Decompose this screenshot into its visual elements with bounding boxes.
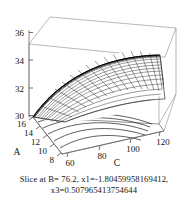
c-tick-label-60: 60 (66, 158, 76, 168)
z-tick-label-34: 34 (15, 56, 25, 66)
surface-plot-canvas: 36 34 32 30 16 14 12 10 8 A (0, 0, 188, 172)
surface-plot-figure: 36 34 32 30 16 14 12 10 8 A (0, 0, 188, 206)
surface-mesh (33, 50, 168, 122)
a-tick-label-8: 8 (50, 155, 55, 165)
c-axis-title: C (114, 158, 120, 168)
caption-line-2: x3=0.507965413754644 (0, 185, 188, 196)
c-axis: 60 80 100 120 C (62, 131, 170, 168)
plot-caption: Slice at B= 76.2, x1=-1.80459958169412, … (0, 174, 188, 196)
z-tick-label-32: 32 (15, 84, 24, 94)
z-axis-ticks (29, 33, 33, 116)
c-tick-label-120: 120 (156, 137, 170, 147)
depth-axis-title: A (14, 147, 21, 157)
c-tick-label-80: 80 (98, 151, 108, 161)
caption-line-1: Slice at B= 76.2, x1=-1.80459958169412, (0, 174, 188, 185)
a-tick-label-10: 10 (38, 146, 48, 156)
z-tick-label-36: 36 (15, 28, 25, 38)
c-tick-label-100: 100 (126, 144, 140, 154)
